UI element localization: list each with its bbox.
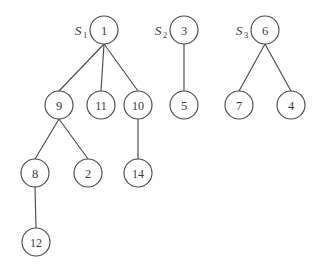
tree-edge: e1 bbox=[59, 44, 104, 91]
tree-node[interactable]: 6 bbox=[251, 16, 279, 44]
tree-edge: e7 bbox=[35, 187, 36, 228]
tree-node[interactable]: 11 bbox=[87, 91, 115, 119]
tree-node[interactable]: 9 bbox=[45, 91, 73, 119]
tree-node[interactable]: 7 bbox=[225, 91, 253, 119]
node-label: 6 bbox=[262, 24, 268, 38]
set-label-subscript: 2 bbox=[163, 30, 167, 40]
tree-node[interactable]: 3 bbox=[170, 16, 198, 44]
set-label: S1 bbox=[75, 23, 88, 41]
set-label-subscript: 1 bbox=[83, 30, 87, 40]
node-label: 9 bbox=[56, 99, 62, 113]
tree-node[interactable]: 4 bbox=[277, 91, 305, 119]
tree-edge: e5 bbox=[59, 119, 88, 159]
node-label: 11 bbox=[95, 99, 107, 113]
node-label: 4 bbox=[288, 99, 295, 113]
node-label: 3 bbox=[181, 24, 187, 38]
nodes-layer: 19111082141235674 bbox=[21, 16, 305, 256]
set-label: S2 bbox=[155, 23, 168, 41]
tree-node[interactable]: 8 bbox=[21, 159, 49, 187]
node-label: 8 bbox=[32, 167, 38, 181]
node-label: 10 bbox=[132, 99, 144, 113]
tree-edge: e3 bbox=[104, 44, 138, 91]
node-label: 2 bbox=[85, 167, 91, 181]
node-label: 14 bbox=[132, 167, 144, 181]
tree-node[interactable]: 1 bbox=[90, 16, 118, 44]
tree-node[interactable]: 12 bbox=[22, 228, 50, 256]
node-label: 12 bbox=[30, 236, 42, 250]
set-label-base: S bbox=[236, 23, 243, 38]
set-label-base: S bbox=[155, 23, 162, 38]
tree-node[interactable]: 2 bbox=[74, 159, 102, 187]
set-label-base: S bbox=[75, 23, 82, 38]
node-label: 7 bbox=[236, 99, 242, 113]
set-label-subscript: 3 bbox=[244, 30, 248, 40]
tree-edge: e9 bbox=[239, 44, 265, 91]
set-label: S3 bbox=[236, 23, 249, 41]
forest-canvas: e1e2e3e4e5e6e7e8e9e10 19111082141235674 … bbox=[0, 0, 323, 275]
tree-node[interactable]: 10 bbox=[124, 91, 152, 119]
tree-edge: e2 bbox=[101, 44, 104, 91]
tree-node[interactable]: 5 bbox=[170, 91, 198, 119]
tree-edge: e4 bbox=[35, 119, 59, 159]
edges-layer: e1e2e3e4e5e6e7e8e9e10 bbox=[35, 44, 291, 228]
node-label: 5 bbox=[181, 99, 187, 113]
tree-node[interactable]: 14 bbox=[124, 159, 152, 187]
forest-diagram: e1e2e3e4e5e6e7e8e9e10 19111082141235674 … bbox=[0, 0, 323, 275]
tree-edge: e10 bbox=[265, 44, 291, 91]
node-label: 1 bbox=[101, 24, 107, 38]
